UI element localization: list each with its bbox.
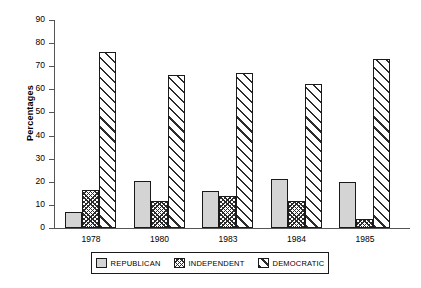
bar-republican-1985[interactable]	[339, 182, 356, 228]
bar-independent-1983[interactable]	[219, 196, 236, 228]
legend-items: REPUBLICANINDEPENDENTDEMOCRATIC	[96, 258, 325, 268]
bar-group-1985	[339, 20, 391, 228]
bar-republican-1978[interactable]	[65, 212, 82, 228]
y-tick-label: 80	[36, 37, 45, 48]
plot-area: 9080706050403020100 19781980198319841985	[54, 20, 409, 228]
y-tick-label: 10	[36, 199, 45, 210]
legend-label: INDEPENDENT	[189, 259, 245, 268]
y-tick-label: 20	[36, 176, 45, 187]
legend-item-independent[interactable]: INDEPENDENT	[174, 258, 245, 268]
bar-chart: Percentages 9080706050403020100 19781980…	[0, 0, 421, 288]
x-axis-line	[54, 228, 410, 229]
y-tick-20: 20	[49, 182, 54, 183]
bar-group-1980	[134, 20, 186, 228]
bar-independent-1985[interactable]	[356, 219, 373, 228]
y-tick-60: 60	[49, 89, 54, 90]
bar-democratic-1985[interactable]	[373, 59, 390, 228]
x-tick-label-1983: 1983	[198, 234, 258, 244]
y-tick-40: 40	[49, 136, 54, 137]
bar-independent-1978[interactable]	[82, 190, 99, 228]
y-tick-0: 0	[49, 228, 54, 229]
bar-group-1978	[65, 20, 117, 228]
x-tick-label-1978: 1978	[61, 234, 121, 244]
y-tick-label: 70	[36, 60, 45, 71]
x-tick-label-1980: 1980	[130, 234, 190, 244]
bar-republican-1984[interactable]	[271, 179, 288, 228]
legend-swatch-independent-icon	[174, 258, 185, 268]
bar-republican-1983[interactable]	[202, 191, 219, 228]
y-tick-label: 0	[40, 222, 45, 233]
y-tick-70: 70	[49, 66, 54, 67]
y-tick-label: 60	[36, 83, 45, 94]
y-tick-label: 90	[36, 14, 45, 25]
bar-group-1984	[271, 20, 323, 228]
bar-independent-1984[interactable]	[288, 201, 305, 228]
y-tick-30: 30	[49, 159, 54, 160]
y-axis-line	[54, 20, 55, 229]
chart-legend: REPUBLICANINDEPENDENTDEMOCRATIC	[91, 252, 329, 274]
y-tick-label: 50	[36, 106, 45, 117]
legend-label: DEMOCRATIC	[273, 259, 325, 268]
legend-swatch-democratic-icon	[258, 258, 269, 268]
bar-democratic-1983[interactable]	[236, 73, 253, 228]
legend-label: REPUBLICAN	[111, 259, 161, 268]
bar-democratic-1978[interactable]	[99, 52, 116, 228]
legend-swatch-republican-icon	[96, 258, 107, 268]
y-tick-90: 90	[49, 20, 54, 21]
y-tick-50: 50	[49, 112, 54, 113]
y-tick-label: 30	[36, 153, 45, 164]
y-axis-title: Percentages	[25, 53, 35, 173]
legend-item-democratic[interactable]: DEMOCRATIC	[258, 258, 325, 268]
legend-item-republican[interactable]: REPUBLICAN	[96, 258, 161, 268]
y-tick-label: 40	[36, 130, 45, 141]
x-tick-label-1985: 1985	[335, 234, 395, 244]
x-tick-label-1984: 1984	[267, 234, 327, 244]
bar-democratic-1984[interactable]	[305, 84, 322, 228]
y-tick-80: 80	[49, 43, 54, 44]
y-tick-10: 10	[49, 205, 54, 206]
bar-democratic-1980[interactable]	[168, 75, 185, 228]
bar-independent-1980[interactable]	[151, 201, 168, 228]
bar-republican-1980[interactable]	[134, 181, 151, 228]
bar-group-1983	[202, 20, 254, 228]
